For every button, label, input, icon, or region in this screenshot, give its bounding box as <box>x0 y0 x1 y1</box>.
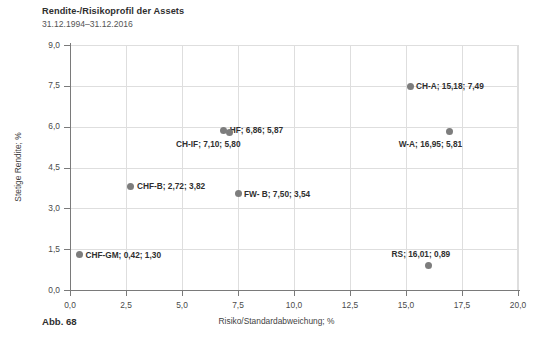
y-axis-tick-label: 0,0 <box>26 285 60 295</box>
y-axis-tick-label: 6,0 <box>26 121 60 131</box>
y-axis-tick-label: 1,5 <box>26 244 60 254</box>
y-axis-tick <box>64 290 71 291</box>
data-point[interactable] <box>407 83 414 90</box>
y-axis-tick-label: 7,5 <box>26 80 60 90</box>
chart-subtitle: 31.12.1994–31.12.2016 <box>42 19 133 29</box>
y-axis-title: Stetige Rendite; % <box>13 107 23 227</box>
x-axis-tick <box>518 290 519 296</box>
x-axis-tick-label: 10,0 <box>274 300 314 310</box>
y-axis-tick-label: 3,0 <box>26 203 60 213</box>
y-axis-tick <box>64 249 71 250</box>
x-axis-tick <box>462 290 463 296</box>
gridline-horizontal <box>70 208 518 209</box>
gridline-horizontal <box>70 168 518 169</box>
gridline-vertical <box>518 45 519 290</box>
data-point-label: W-A; 16,95; 5,81 <box>399 139 462 149</box>
chart-title: Rendite-/Risikoprofil der Assets <box>42 6 184 16</box>
x-axis-tick <box>182 290 183 296</box>
x-axis-tick-label: 17,5 <box>442 300 482 310</box>
x-axis-tick <box>126 290 127 296</box>
data-point-label: CHF-B; 2,72; 3,82 <box>137 181 205 191</box>
y-axis-tick-label: 9,0 <box>26 40 60 50</box>
x-axis-tick <box>350 290 351 296</box>
x-axis-tick-label: 5,0 <box>162 300 202 310</box>
data-point-label: FW- B; 7,50; 3,54 <box>244 189 310 199</box>
data-point-label: HF; 6,86; 5,87 <box>230 125 284 135</box>
data-point-label: CH-A; 15,18; 7,49 <box>416 81 484 91</box>
data-point-label: CH-IF; 7,10; 5,80 <box>176 139 241 149</box>
x-axis-tick-label: 12,5 <box>330 300 370 310</box>
x-axis-tick-label: 0,0 <box>50 300 90 310</box>
gridline-horizontal <box>70 45 518 46</box>
figure-caption: Abb. 68 <box>42 316 77 327</box>
data-point-label: CHF-GM; 0,42; 1,30 <box>85 250 161 260</box>
figure-container: Rendite-/Risikoprofil der Assets 31.12.1… <box>0 0 553 349</box>
x-axis-tick-label: 2,5 <box>106 300 146 310</box>
data-point[interactable] <box>76 251 83 258</box>
data-point-label: RS; 16,01; 0,89 <box>392 249 451 259</box>
x-axis-tick-label: 15,0 <box>386 300 426 310</box>
data-point[interactable] <box>226 129 233 136</box>
x-axis-tick <box>406 290 407 296</box>
y-axis-tick <box>64 208 71 209</box>
y-axis-tick <box>64 86 71 87</box>
y-axis-tick <box>64 168 71 169</box>
data-point[interactable] <box>235 190 242 197</box>
x-axis-tick-label: 7,5 <box>218 300 258 310</box>
x-axis-tick <box>294 290 295 296</box>
x-axis-tick-label: 20,0 <box>498 300 538 310</box>
y-axis-tick <box>64 127 71 128</box>
y-axis-tick-label: 4,5 <box>26 162 60 172</box>
y-axis-tick <box>64 45 71 46</box>
x-axis-tick <box>238 290 239 296</box>
data-point[interactable] <box>127 183 134 190</box>
x-axis-title: Risiko/Standardabweichung; % <box>0 316 553 326</box>
